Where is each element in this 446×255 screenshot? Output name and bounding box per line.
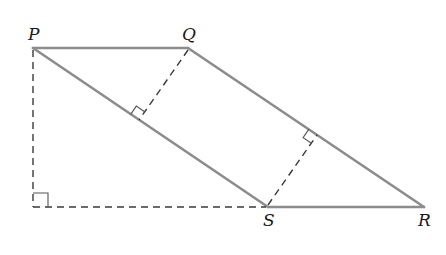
perpendicular-q-to-ps (139, 50, 188, 120)
right-angle-marker-bottom-left (33, 193, 48, 207)
right-angle-marker-q-foot (131, 106, 145, 114)
vertex-label-r: R (417, 210, 431, 230)
side-qr (188, 48, 424, 207)
vertex-label-s: S (263, 210, 275, 230)
vertex-label-q: Q (182, 24, 196, 44)
diagonal-ps (33, 48, 268, 207)
vertex-label-p: P (27, 24, 40, 44)
parallelogram-diagram: P Q S R (0, 0, 446, 255)
perpendicular-s-to-qr (268, 135, 317, 205)
